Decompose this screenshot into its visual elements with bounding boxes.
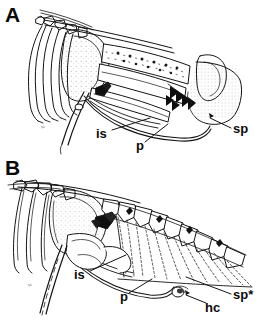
label-is-panel-a: is — [96, 127, 107, 140]
panel-a: A — [0, 0, 264, 160]
panel-b: B — [0, 155, 264, 321]
label-sp-panel-a: sp — [233, 122, 248, 135]
scale-mark-panel-a: sc — [41, 125, 45, 129]
panel-b-artwork — [0, 155, 264, 321]
label-p-panel-a: p — [136, 139, 144, 152]
label-is-panel-b: is — [74, 268, 85, 281]
label-hc-panel-b: hc — [205, 301, 220, 314]
panel-a-drawing — [0, 0, 264, 160]
panel-b-drawing — [0, 155, 264, 321]
scale-mark-panel-b: sc — [28, 283, 32, 287]
figure-panel-pair: A — [0, 0, 264, 321]
label-sp-star-panel-b: sp* — [233, 288, 253, 301]
panel-a-artwork — [0, 0, 264, 160]
label-p-panel-b: p — [120, 290, 128, 303]
